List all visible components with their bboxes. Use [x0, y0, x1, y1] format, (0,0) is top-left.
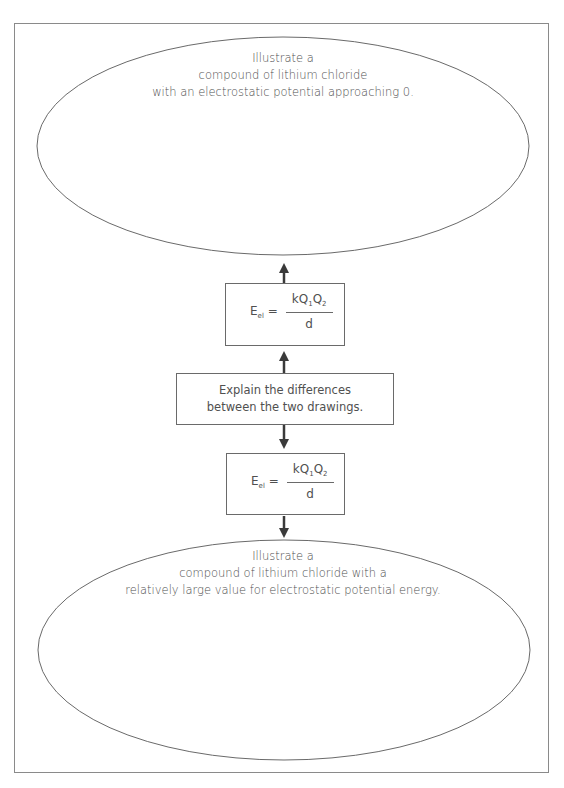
bottom-prompt-line: relatively large value for electrostatic…: [83, 582, 483, 599]
fraction-numerator: kQ1Q2: [287, 462, 334, 483]
bottom-prompt: Illustrate a compound of lithium chlorid…: [83, 548, 483, 599]
numerator-sub2: 2: [323, 470, 327, 478]
energy-subscript: el: [258, 312, 264, 320]
fraction-denominator: d: [305, 313, 313, 331]
top-prompt-line: with an electrostatic potential approach…: [83, 84, 483, 101]
top-prompt: Illustrate a compound of lithium chlorid…: [83, 50, 483, 101]
equals-sign: =: [268, 304, 278, 318]
numerator-kq1: kQ: [293, 462, 309, 476]
equals-sign: =: [269, 474, 279, 488]
explain-differences-box[interactable]: Explain the differences between the two …: [176, 373, 394, 425]
bottom-prompt-line: Illustrate a: [83, 548, 483, 565]
equation-fraction: kQ1Q2 d: [287, 462, 334, 501]
equation-lhs: Eel =: [250, 304, 278, 320]
fraction-denominator: d: [306, 483, 314, 501]
energy-symbol: E: [251, 474, 259, 488]
top-prompt-line: compound of lithium chloride: [83, 67, 483, 84]
numerator-q2: Q: [314, 462, 323, 476]
top-prompt-line: Illustrate a: [83, 50, 483, 67]
numerator-sub2: 2: [322, 300, 326, 308]
equation-lhs: Eel =: [251, 474, 279, 490]
bottom-equation-box: Eel = kQ1Q2 d: [226, 453, 345, 515]
coulomb-equation: Eel = kQ1Q2 d: [250, 292, 333, 331]
bottom-prompt-line: compound of lithium chloride with a: [83, 565, 483, 582]
coulomb-equation: Eel = kQ1Q2 d: [251, 462, 334, 501]
explain-line: Explain the differences: [177, 382, 393, 399]
top-equation-box: Eel = kQ1Q2 d: [225, 283, 345, 346]
numerator-q2: Q: [313, 292, 322, 306]
explain-line: between the two drawings.: [177, 399, 393, 416]
energy-symbol: E: [250, 304, 258, 318]
energy-subscript: el: [259, 482, 265, 490]
numerator-kq1: kQ: [292, 292, 308, 306]
equation-fraction: kQ1Q2 d: [286, 292, 333, 331]
fraction-numerator: kQ1Q2: [286, 292, 333, 313]
explain-text: Explain the differences between the two …: [177, 382, 393, 416]
